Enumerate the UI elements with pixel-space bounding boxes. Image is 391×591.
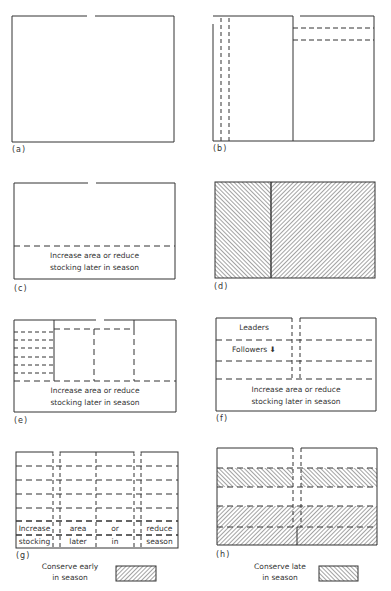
panel-d <box>215 182 375 278</box>
panel-f-followers: Followers ⬇ <box>216 344 292 356</box>
panel-label-f: (f) <box>216 414 228 423</box>
panel-label-b: (b) <box>213 144 227 153</box>
panel-h <box>217 448 377 545</box>
panel-c-text: Increase area or reduce stocking later i… <box>14 250 175 274</box>
panel-g-cell: stocking <box>16 536 53 548</box>
legend-swatch-early <box>116 566 156 581</box>
legend-swatch-late <box>319 566 358 581</box>
legend-late-text: Conserve late in season <box>240 561 320 583</box>
panel-g-cell: area <box>60 523 96 535</box>
panel-g-cell: or <box>96 523 134 535</box>
panel-label-a: (a) <box>12 145 26 154</box>
legend-early-text: Conserve early in season <box>30 561 110 583</box>
panel-label-d: (d) <box>214 282 228 291</box>
panel-g-cell: Increase <box>16 523 53 535</box>
panel-g-cell: in <box>96 536 134 548</box>
panel-g-cell: reduce <box>141 523 178 535</box>
panel-label-g: (g) <box>16 551 30 560</box>
panel-e-text: Increase area or reduce stocking later i… <box>14 385 176 409</box>
down-arrow-icon: ⬇ <box>270 345 276 354</box>
panel-g-cell: season <box>141 536 178 548</box>
grazing-diagram <box>0 0 391 591</box>
panel-f-text: Increase area or reduce stocking later i… <box>216 384 376 408</box>
panel-label-h: (h) <box>216 550 230 559</box>
panel-f-leaders: Leaders <box>216 322 292 334</box>
panel-b <box>213 16 374 141</box>
panel-a <box>12 16 174 142</box>
panel-g-cell: later <box>60 536 96 548</box>
panel-label-e: (e) <box>14 416 28 425</box>
panel-label-c: (c) <box>14 284 28 293</box>
